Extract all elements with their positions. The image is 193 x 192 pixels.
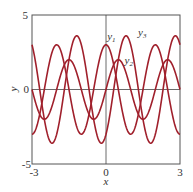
xtick-left: -3 bbox=[29, 166, 39, 178]
xtick-right: 3 bbox=[177, 166, 183, 178]
label-y1: y1 bbox=[106, 30, 115, 44]
tick-labels: 5 0 -5 -3 0 3 bbox=[22, 9, 183, 178]
ytick-zero: 0 bbox=[24, 83, 30, 95]
x-axis-label: x bbox=[103, 175, 109, 187]
label-y3: y3 bbox=[137, 26, 147, 40]
label-y2: y2 bbox=[124, 54, 134, 68]
y-axis-label: y bbox=[7, 86, 19, 92]
line-chart: 5 0 -5 -3 0 3 x y y1y3y2 bbox=[0, 0, 193, 192]
ytick-top: 5 bbox=[23, 9, 29, 21]
